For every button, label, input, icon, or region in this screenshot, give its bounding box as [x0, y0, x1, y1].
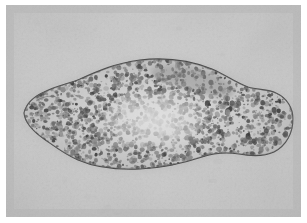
specimen-micrograph — [6, 5, 301, 217]
micrograph-figure — [0, 0, 307, 223]
photo-plate — [6, 5, 301, 217]
film-grain-overlay — [6, 5, 301, 217]
